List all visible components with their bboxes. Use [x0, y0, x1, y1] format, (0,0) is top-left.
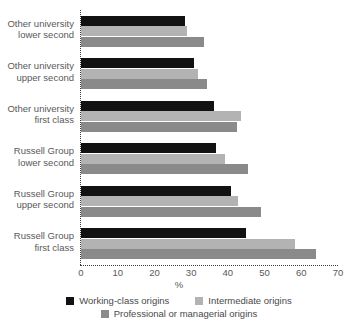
category-label: Other universitylower second: [0, 18, 74, 41]
legend-label: Professional or managerial origins: [114, 308, 258, 319]
category-axis-labels: Other universitylower secondOther univer…: [0, 10, 78, 265]
x-tick-label: 60: [296, 267, 307, 278]
category-label-line: Other university: [0, 103, 74, 115]
legend-swatch-icon: [66, 297, 74, 305]
category-label-line: Russell Group: [0, 188, 74, 200]
bar-group: [81, 58, 338, 89]
category-label-line: lower second: [0, 157, 74, 169]
bar: [81, 207, 261, 217]
bar: [81, 122, 237, 132]
bar: [81, 16, 185, 26]
category-label-line: first class: [0, 114, 74, 126]
legend-item[interactable]: Intermediate origins: [195, 294, 291, 307]
legend-swatch-icon: [195, 297, 203, 305]
category-label: Other universityupper second: [0, 60, 74, 83]
x-axis-title: %: [0, 279, 358, 290]
bar-group: [81, 16, 338, 47]
plot-area: [81, 10, 338, 265]
bar: [81, 249, 316, 259]
category-label: Russell Groupfirst class: [0, 230, 74, 253]
x-tick-label: 20: [149, 267, 160, 278]
legend-label: Intermediate origins: [208, 295, 291, 306]
bar-group: [81, 143, 338, 174]
legend-item[interactable]: Working-class origins: [66, 294, 169, 307]
legend-label: Working-class origins: [79, 295, 169, 306]
category-label-line: Russell Group: [0, 230, 74, 242]
grouped-bar-chart: Other universitylower secondOther univer…: [0, 0, 358, 325]
legend-swatch-icon: [101, 310, 109, 318]
bar: [81, 111, 241, 121]
x-tick-label: 70: [333, 267, 344, 278]
bar: [81, 196, 238, 206]
category-label-line: upper second: [0, 199, 74, 211]
bar: [81, 26, 187, 36]
category-label-line: lower second: [0, 29, 74, 41]
bar: [81, 239, 295, 249]
bar: [81, 154, 225, 164]
category-label-line: first class: [0, 242, 74, 254]
bar: [81, 37, 204, 47]
legend-row-2: Professional or managerial origins: [0, 307, 358, 320]
bar: [81, 79, 207, 89]
bar-group: [81, 101, 338, 132]
chart-legend: Working-class originsIntermediate origin…: [0, 294, 358, 325]
category-label-line: Other university: [0, 60, 74, 72]
bar: [81, 101, 214, 111]
x-tick-label: 10: [112, 267, 123, 278]
bar-group: [81, 186, 338, 217]
legend-row-1: Working-class originsIntermediate origin…: [0, 294, 358, 307]
x-tick-label: 30: [186, 267, 197, 278]
category-label: Russell Grouplower second: [0, 145, 74, 168]
category-label: Other universityfirst class: [0, 103, 74, 126]
legend-item[interactable]: Professional or managerial origins: [101, 307, 258, 320]
category-label-line: Other university: [0, 18, 74, 30]
bar: [81, 228, 246, 238]
bar: [81, 69, 198, 79]
y-axis-dotted-line: [80, 10, 81, 265]
bar: [81, 186, 231, 196]
x-tick-label: 40: [223, 267, 234, 278]
category-label: Russell Groupupper second: [0, 188, 74, 211]
x-axis-dotted-line: [80, 265, 338, 266]
x-tick-label: 50: [259, 267, 270, 278]
bar: [81, 143, 216, 153]
category-label-line: upper second: [0, 72, 74, 84]
category-label-line: Russell Group: [0, 145, 74, 157]
bar-group: [81, 228, 338, 259]
bar: [81, 164, 248, 174]
x-tick-label: 0: [78, 267, 83, 278]
bar: [81, 58, 194, 68]
